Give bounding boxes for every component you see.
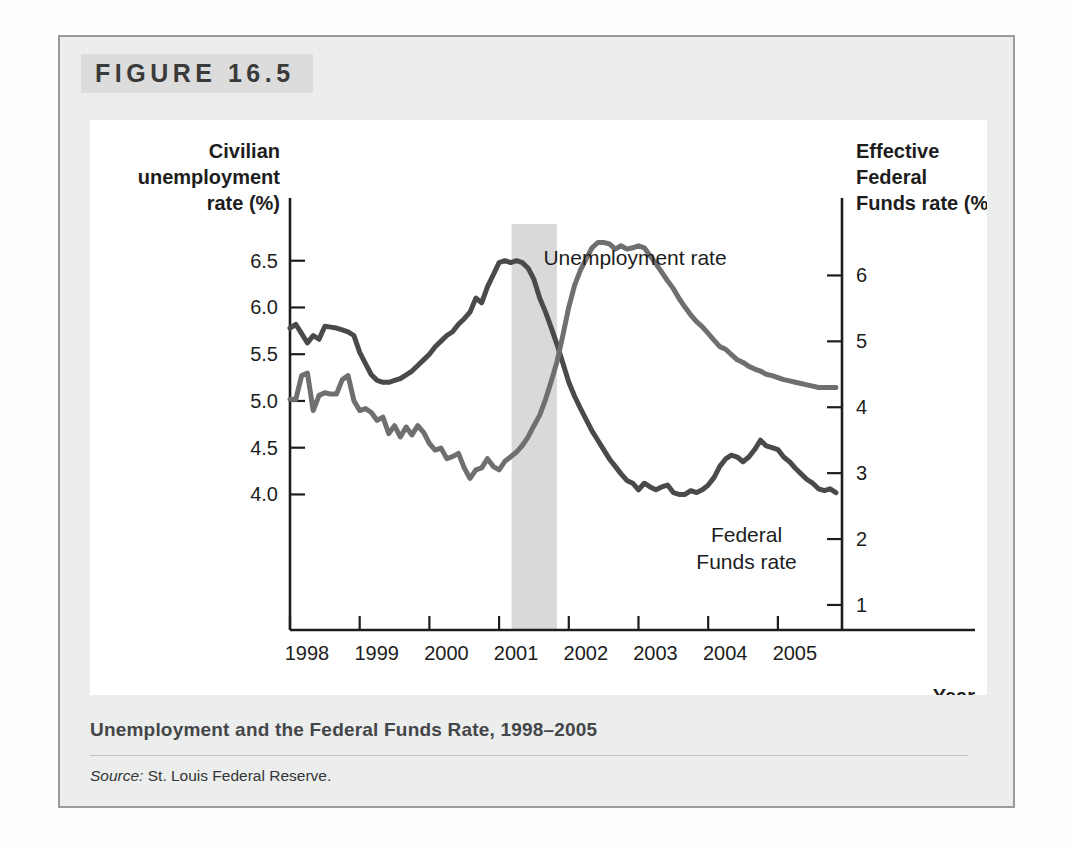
right-axis-tick-label: 6 bbox=[856, 264, 867, 286]
figure-caption: Unemployment and the Federal Funds Rate,… bbox=[90, 719, 990, 742]
figure-page: FIGURE 16.5 6.56.05.55.04.54.06543211998… bbox=[0, 0, 1075, 852]
left-axis-tick-label: 4.5 bbox=[250, 437, 278, 459]
series-line-unemployment-rate bbox=[290, 261, 836, 495]
caption-block: Unemployment and the Federal Funds Rate,… bbox=[90, 719, 990, 785]
left-axis-tick-label: 6.5 bbox=[250, 250, 278, 272]
x-axis-tick-label: 2002 bbox=[564, 642, 609, 664]
source-text: St. Louis Federal Reserve. bbox=[148, 767, 332, 784]
left-axis-tick-label: 4.0 bbox=[250, 483, 278, 505]
x-axis-tick-label: 2005 bbox=[773, 642, 818, 664]
left-axis-title-line: Civilian bbox=[209, 140, 280, 162]
left-axis-tick-label: 5.0 bbox=[250, 390, 278, 412]
x-axis-tick-label: 2000 bbox=[424, 642, 469, 664]
caption-divider bbox=[90, 755, 968, 756]
chart-text-labels: 6.56.05.55.04.54.06543211998199920002001… bbox=[138, 140, 987, 695]
right-axis-tick-label: 1 bbox=[856, 594, 867, 616]
chart-svg: 6.56.05.55.04.54.06543211998199920002001… bbox=[90, 120, 987, 695]
right-axis-tick-label: 4 bbox=[856, 396, 867, 418]
right-axis-tick-label: 5 bbox=[856, 330, 867, 352]
source-label: Source: bbox=[90, 767, 143, 784]
x-axis-tick-label: 2003 bbox=[633, 642, 678, 664]
right-axis-title-line: Federal bbox=[856, 166, 927, 188]
x-axis-tick-label: 1998 bbox=[285, 642, 330, 664]
figure-number-badge: FIGURE 16.5 bbox=[81, 54, 313, 93]
chart-panel: 6.56.05.55.04.54.06543211998199920002001… bbox=[90, 120, 987, 695]
x-axis-tick-label: 1999 bbox=[354, 642, 399, 664]
chart-series bbox=[290, 243, 836, 495]
federal-funds-rate-label: Federal bbox=[711, 523, 782, 546]
left-axis-title-line: rate (%) bbox=[207, 192, 280, 214]
left-axis-tick-label: 5.5 bbox=[250, 343, 278, 365]
source-line: Source: St. Louis Federal Reserve. bbox=[90, 767, 990, 785]
right-axis-tick-label: 3 bbox=[856, 462, 867, 484]
federal-funds-rate-label: Funds rate bbox=[696, 550, 796, 573]
left-axis-tick-label: 6.0 bbox=[250, 296, 278, 318]
x-axis-tick-label: 2001 bbox=[494, 642, 539, 664]
figure-card: FIGURE 16.5 6.56.05.55.04.54.06543211998… bbox=[58, 35, 1015, 808]
x-axis-tick-label: 2004 bbox=[703, 642, 748, 664]
figure-number-label: FIGURE 16.5 bbox=[95, 60, 295, 86]
x-axis-title: Year bbox=[933, 685, 975, 695]
left-axis-title-line: unemployment bbox=[138, 166, 281, 188]
right-axis-title-line: Funds rate (%) bbox=[856, 192, 987, 214]
unemployment-rate-label: Unemployment rate bbox=[543, 246, 726, 269]
right-axis-title-line: Effective bbox=[856, 140, 939, 162]
right-axis-tick-label: 2 bbox=[856, 528, 867, 550]
